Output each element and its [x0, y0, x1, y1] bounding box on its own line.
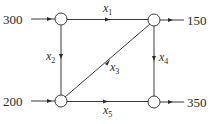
- arrow-icon: [59, 54, 63, 59]
- inflow-300: 300: [3, 12, 55, 27]
- edge-x3-label: x3: [109, 60, 119, 76]
- edge-x2: x2: [45, 25, 63, 95]
- arrow-icon: [168, 18, 173, 22]
- arrow-icon: [152, 56, 156, 61]
- edge-x1-label: x1: [102, 1, 112, 17]
- node-bottom-left: [55, 95, 67, 107]
- edge-x3: x3: [65, 24, 150, 97]
- inflow-200-label: 200: [3, 94, 23, 109]
- edge-x4: x4: [152, 26, 168, 96]
- outflow-150: 150: [160, 13, 207, 28]
- inflow-300-label: 300: [3, 12, 23, 27]
- outflow-150-label: 150: [187, 13, 207, 28]
- arrow-icon: [47, 99, 52, 103]
- network-flow-diagram: 300 x1 150 x2 x3 x4 200 x5: [0, 0, 215, 124]
- edge-x5-label: x5: [102, 103, 112, 119]
- edge-x3-line: [65, 24, 150, 97]
- edge-x5: x5: [67, 100, 148, 120]
- outflow-350-label: 350: [187, 95, 207, 110]
- edge-x2-label: x2: [45, 49, 55, 65]
- node-top-right: [148, 14, 160, 26]
- edge-x1: x1: [67, 1, 148, 22]
- inflow-200: 200: [3, 94, 55, 109]
- node-bottom-right: [148, 96, 160, 108]
- arrow-icon: [168, 100, 173, 104]
- arrow-icon: [47, 17, 52, 21]
- edge-x4-label: x4: [158, 50, 168, 66]
- arrow-icon: [105, 18, 110, 22]
- node-top-left: [55, 13, 67, 25]
- outflow-350: 350: [160, 95, 207, 110]
